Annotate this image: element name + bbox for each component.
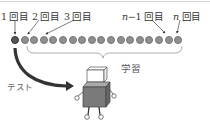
label-test: テスト (7, 80, 33, 92)
learning-brace (27, 46, 182, 58)
robot-icon (75, 67, 116, 119)
label-learning: 学習 (121, 61, 140, 75)
arrow-to-dot-n (177, 20, 180, 33)
arrow-to-dot-n-minus-1 (152, 20, 165, 33)
diagram-lines (0, 0, 210, 123)
arrow-to-dot-2 (28, 20, 39, 34)
arrow-to-dot-3 (46, 20, 74, 34)
